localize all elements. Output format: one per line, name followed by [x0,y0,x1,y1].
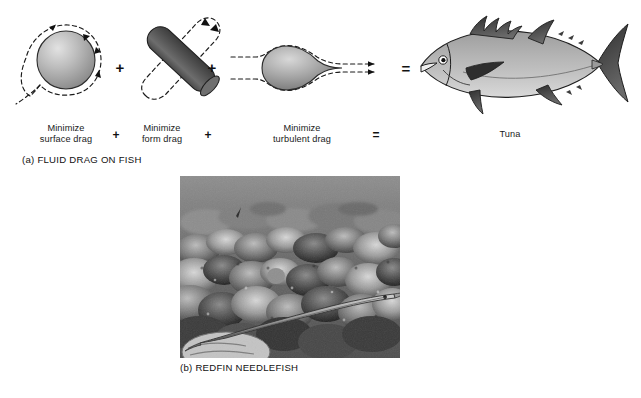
sphere-flow-arrow-4 [95,70,101,78]
tuna-dorsal-finlet-1 [558,31,564,36]
figure-root: + + [0,0,641,398]
sphere-surface-drag-illustration [16,25,101,105]
panel-a-fluid-drag: + + [0,0,641,168]
cylinder-flow-arrow-1 [201,18,210,26]
panel-b-needlefish-photo [180,176,400,358]
label-operator-equals: = [368,129,384,141]
tuna-ventral-finlet-1 [566,90,572,95]
operator-equals: = [402,60,411,77]
panel-a-caption: (a) FLUID DRAG ON FISH [22,154,142,166]
tuna-ventral-finlet-2 [576,85,582,90]
cylinder-flow-arrow-2 [210,24,219,32]
tuna-dorsal-finlet-3 [578,40,584,45]
operator-plus-2: + [208,59,217,76]
operator-plus-1: + [116,59,125,76]
label-operator-plus-2: + [200,129,216,141]
label-operator-plus-1: + [108,129,124,141]
sphere-body [37,31,95,89]
sphere-flow-arrow-1 [49,25,56,32]
drag-term-label-row: Minimize surface drag + Minimize form dr… [0,120,641,154]
label-minimize-turbulent-drag: Minimize turbulent drag [250,123,354,146]
reef-photograph [180,176,400,358]
label-tuna: Tuna [470,129,550,140]
panel-b-caption: (b) REDFIN NEEDLEFISH [180,362,298,374]
tuna-eye-pupil [441,58,445,62]
tuna-caudal-fin [598,24,628,102]
photo-frame [180,176,400,358]
label-minimize-form-drag: Minimize form drag [126,123,198,146]
photo-grain-overlay [180,176,400,358]
tuna-dorsal-finlet-2 [568,35,574,40]
teardrop-body [262,46,342,90]
tuna-illustration [421,16,628,114]
label-minimize-surface-drag: Minimize surface drag [24,123,108,146]
drag-diagram: + + [0,0,641,120]
tuna-body [421,31,601,97]
teardrop-turbulent-drag-illustration [231,46,374,91]
